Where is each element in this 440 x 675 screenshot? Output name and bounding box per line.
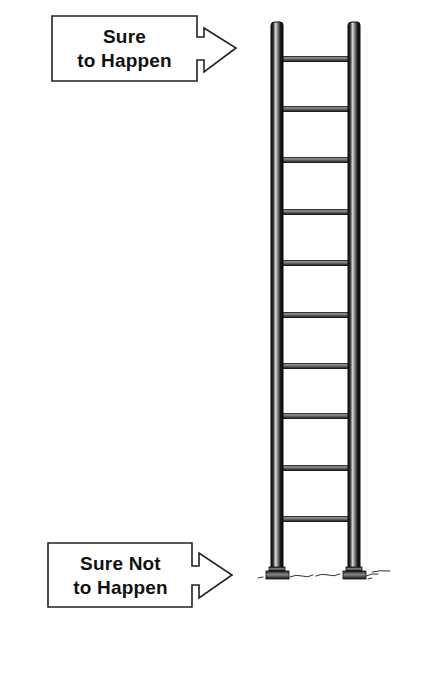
ladder-rung xyxy=(282,106,349,112)
ladder-right-rail xyxy=(348,22,360,570)
ladder-left-rail xyxy=(271,22,283,570)
bottom-label-line-1: Sure Not xyxy=(80,552,161,576)
ladder-rung xyxy=(282,56,349,62)
bottom-label-line-2: to Happen xyxy=(73,576,168,600)
top-label-line-1: Sure xyxy=(103,25,146,49)
ladder-rungs xyxy=(282,56,349,522)
ladder-rung xyxy=(282,363,349,369)
ladder-rung xyxy=(282,516,349,522)
top-label-line-2: to Happen xyxy=(77,49,172,73)
bottom-label-sure-not-to-happen: Sure Not to Happen xyxy=(49,544,192,607)
ladder-rung xyxy=(282,413,349,419)
ladder-rung xyxy=(282,465,349,471)
ladder xyxy=(258,22,390,579)
ladder-left-foot xyxy=(266,567,289,579)
ladder-rung xyxy=(282,157,349,163)
ladder-rung xyxy=(282,260,349,266)
top-label-sure-to-happen: Sure to Happen xyxy=(53,17,196,81)
ladder-rung xyxy=(282,312,349,318)
ladder-rung xyxy=(282,209,349,215)
diagram-canvas: Sure to Happen Sure Not to Happen xyxy=(0,0,440,675)
ladder-right-foot xyxy=(343,567,366,579)
